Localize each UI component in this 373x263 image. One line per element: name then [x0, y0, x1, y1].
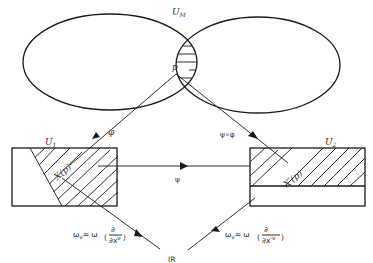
svg-text:∂: ∂ [111, 225, 115, 234]
chart1-rectangle [12, 148, 117, 206]
chart2-hatching [250, 148, 365, 186]
svg-text:∂x′ν: ∂x′ν [262, 234, 276, 245]
left-ellipse [23, 14, 197, 110]
svg-text:): ) [281, 233, 284, 242]
target-IR-label: IR [168, 255, 175, 263]
manifold-set-label: UM [172, 7, 187, 18]
svg-text:ων= ω: ων= ω [73, 230, 98, 240]
svg-text:∂xν: ∂xν [109, 234, 121, 245]
chart2-map-arrow [176, 74, 288, 163]
right-ellipse [176, 17, 340, 113]
svg-text:ων= ω: ων= ω [225, 230, 250, 240]
form2-arrowhead [211, 226, 220, 232]
svg-text:(: ( [104, 233, 107, 242]
intersection-hatching [140, 38, 220, 102]
svg-text:): ) [123, 233, 126, 242]
form1-formula: ων= ω ( ∂ ∂xν ) [73, 225, 126, 245]
svg-text:∂: ∂ [264, 225, 268, 234]
chart1-set-label: U1 [45, 137, 56, 148]
diagram-canvas: UM p U1 X(p) U2 X′(p) φ ψ∘φ [0, 0, 373, 263]
chart1-hatching [30, 148, 118, 206]
chart2-set-label: U2 [325, 137, 337, 148]
point-p-label: p [172, 62, 178, 72]
svg-text:(: ( [257, 233, 260, 242]
chart1-map-arrow [70, 74, 176, 165]
transition-map-arrowhead [180, 162, 188, 170]
form2-formula: ων= ω ( ∂ ∂x′ν ) [225, 225, 284, 245]
chart1-map-arrowhead [92, 132, 100, 139]
transition-map-label: ψ [175, 175, 180, 184]
form2-arrow [188, 198, 255, 250]
chart1-map-label: φ [108, 127, 115, 137]
chart2-map-label: ψ∘φ [220, 130, 235, 139]
form1-arrowhead [134, 229, 143, 237]
